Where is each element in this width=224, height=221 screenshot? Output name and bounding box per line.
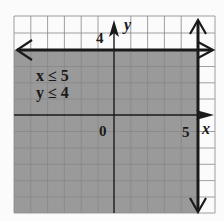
origin-label: 0 — [99, 123, 107, 139]
x-axis-label: x — [201, 120, 210, 137]
y-tick-label-4: 4 — [96, 30, 104, 46]
inequality-label-x: x ≤ 5 — [36, 67, 69, 84]
inequality-label-y: y ≤ 4 — [36, 84, 69, 102]
y-axis-label: y — [122, 16, 132, 34]
inequality-graph: 4 y 0 5 x x ≤ 5 y ≤ 4 — [0, 0, 224, 221]
x-tick-label-5: 5 — [182, 124, 190, 140]
